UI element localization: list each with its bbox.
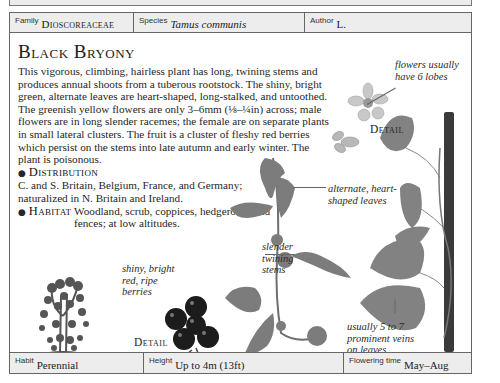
annotation-flowers-text: flowers usually have 6 lobes [395, 59, 459, 82]
leader-line [395, 300, 396, 314]
species-cell: Species Tamus communis [134, 13, 305, 32]
flowering-cell: Flowering time May–Aug [344, 353, 471, 373]
meta-row-top: Family Dioscoreaceae Species Tamus commu… [10, 13, 471, 33]
plant-leaves-illustration [340, 88, 470, 353]
annotation-berries-text: shiny, bright red, ripe berries [122, 263, 175, 297]
height-key: Height [149, 356, 172, 365]
annotation-veins-text: usually 5 to 7 prominent veins on leaves [347, 321, 414, 355]
flowering-value: May–Aug [404, 359, 449, 371]
habit-cell: Habit Perennial [10, 353, 144, 373]
family-cell: Family Dioscoreaceae [10, 13, 134, 32]
habit-key: Habit [15, 356, 34, 365]
author-value: L. [337, 18, 346, 30]
author-cell: Author L. [305, 13, 471, 32]
habitat-label: Habitat [29, 204, 71, 218]
bullet-icon: ● [18, 168, 26, 178]
page-title-bar: Yam Family [9, 0, 472, 6]
annotation-flowers: flowers usually have 6 lobes [395, 59, 475, 82]
family-key: Family [15, 16, 39, 25]
leader-line [293, 187, 326, 188]
distribution-label: Distribution [29, 165, 98, 179]
detail-label-flower: Detail [370, 123, 404, 135]
height-value: Up to 4m (13ft) [175, 359, 244, 371]
annotation-stems: slender twining stems [262, 241, 314, 276]
flowering-key: Flowering time [349, 356, 401, 365]
berries-detail-image [162, 293, 232, 353]
species-key: Species [139, 16, 167, 25]
annotation-veins: usually 5 to 7 prominent veins on leaves [347, 321, 427, 356]
author-key: Author [310, 16, 334, 25]
bullet-icon: ● [18, 207, 26, 217]
leader-line [265, 254, 295, 255]
species-card: Family Dioscoreaceae Species Tamus commu… [9, 12, 472, 374]
distribution-text: C. and S. Britain, Belgium, France, and … [18, 179, 248, 204]
annotation-stems-text: slender twining stems [262, 241, 294, 275]
meta-row-bottom: Habit Perennial Height Up to 4m (13ft) F… [10, 352, 471, 373]
annotation-berries: shiny, bright red, ripe berries [122, 263, 180, 298]
plant-silhouette-icon [30, 276, 100, 356]
height-cell: Height Up to 4m (13ft) [144, 353, 344, 373]
detail-label-berries: Detail [134, 336, 168, 348]
family-value: Dioscoreaceae [42, 18, 115, 30]
annotation-leaves-text: alternate, heart-shaped leaves [328, 183, 397, 206]
species-value: Tamus communis [170, 18, 246, 30]
species-heading: Black Bryony [18, 41, 135, 63]
habit-value: Perennial [37, 359, 79, 371]
annotation-leaves: alternate, heart-shaped leaves [328, 183, 398, 206]
